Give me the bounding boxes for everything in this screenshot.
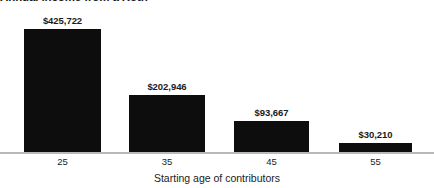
x-tick-label: 45 (266, 156, 277, 167)
bar (234, 121, 309, 153)
bar-group: $93,667 (234, 121, 309, 153)
x-tick-label: 35 (162, 156, 173, 167)
x-tick-label: 55 (370, 156, 381, 167)
x-axis-tick-labels: 25 35 45 55 (0, 156, 434, 170)
x-axis-line (0, 152, 434, 154)
bar-group: $202,946 (129, 95, 205, 153)
bar-chart: Annual income from a Roth $425,722 $202,… (0, 0, 434, 188)
bar-group: $425,722 (24, 29, 101, 153)
bar (24, 29, 101, 153)
bar-value-label: $202,946 (147, 81, 186, 92)
bar-value-label: $93,667 (255, 107, 289, 118)
x-axis-title: Starting age of contributors (0, 172, 434, 184)
bar-value-label: $425,722 (43, 15, 82, 26)
bar-value-label: $30,210 (359, 129, 393, 140)
bar (129, 95, 205, 153)
x-tick-label: 25 (57, 156, 68, 167)
plot-area: $425,722 $202,946 $93,667 $30,210 (0, 0, 434, 153)
